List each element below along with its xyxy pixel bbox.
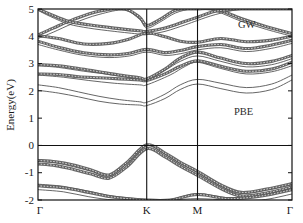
gw-annotation-label: GW xyxy=(238,19,256,30)
y-tick-label-2: 2 xyxy=(29,85,35,97)
x-tick-label-gamma-right: Γ xyxy=(287,204,293,216)
y-tick-label-1: 1 xyxy=(29,112,35,124)
x-tick-label-gamma-left: Γ xyxy=(37,204,43,216)
y-tick-label-neg2: -2 xyxy=(25,194,34,206)
y-tick-label-5: 5 xyxy=(29,3,35,15)
x-tick-label-m: M xyxy=(193,204,203,216)
band-structure-figure: 5 4 3 2 1 0 -1 -2 Energy(eV) Γ K M Γ GW … xyxy=(0,0,303,223)
y-tick-label-4: 4 xyxy=(29,30,35,42)
pbe-annotation-label: PBE xyxy=(234,106,253,117)
y-tick-label-neg1: -1 xyxy=(25,166,34,178)
band-structure-plot: 5 4 3 2 1 0 -1 -2 Energy(eV) Γ K M Γ GW … xyxy=(0,0,303,223)
x-tick-label-k: K xyxy=(143,204,151,216)
y-tick-label-3: 3 xyxy=(29,57,35,69)
y-tick-label-0: 0 xyxy=(29,139,35,151)
y-axis-label: Energy(eV) xyxy=(4,79,17,131)
